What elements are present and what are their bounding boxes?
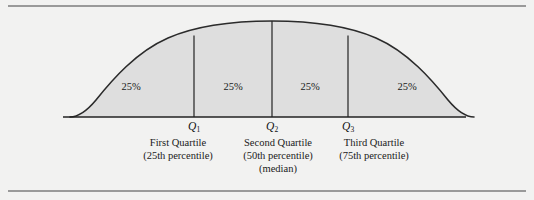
quartile-symbol-q2: Q2 xyxy=(266,120,278,132)
quartile-symbol-q2-letter: Q xyxy=(266,120,274,132)
bottom-divider-rule xyxy=(8,190,526,192)
quartile-caption-q1-name: First Quartile xyxy=(143,136,213,149)
quartile-caption-q1-percentile: (25th percentile) xyxy=(143,149,213,162)
area-percent-label-4: 25% xyxy=(397,81,416,92)
quartile-caption-q3-percentile: (75th percentile) xyxy=(339,149,409,162)
quartile-caption-q2-name: Second Quartile xyxy=(243,136,313,149)
area-percent-label-1: 25% xyxy=(121,81,140,92)
quartile-symbol-q3-letter: Q xyxy=(342,120,350,132)
distribution-curve-graphic xyxy=(0,8,534,138)
area-percent-label-3: 25% xyxy=(300,81,319,92)
area-percent-label-2: 25% xyxy=(223,81,242,92)
quartile-caption-q3: Third Quartile (75th percentile) xyxy=(339,136,409,162)
quartile-symbol-q1-sub: 1 xyxy=(197,125,201,134)
quartile-caption-q1: First Quartile (25th percentile) xyxy=(143,136,213,162)
quartile-symbol-q3: Q3 xyxy=(342,120,354,132)
quartile-diagram: 25% 25% 25% 25% Q1 Q2 Q3 First Quartile … xyxy=(0,8,534,188)
quartile-caption-q2-median: (median) xyxy=(243,162,313,175)
quartile-symbol-q3-sub: 3 xyxy=(351,125,355,134)
quartile-caption-q3-name: Third Quartile xyxy=(339,136,409,149)
figure-page: 25% 25% 25% 25% Q1 Q2 Q3 First Quartile … xyxy=(0,0,534,200)
quartile-caption-q2-percentile: (50th percentile) xyxy=(243,149,313,162)
quartile-symbol-q1-letter: Q xyxy=(188,120,196,132)
quartile-caption-q2: Second Quartile (50th percentile) (media… xyxy=(243,136,313,175)
quartile-symbol-q1: Q1 xyxy=(188,120,200,132)
quartile-symbol-q2-sub: 2 xyxy=(275,125,279,134)
top-divider-rule xyxy=(8,5,526,7)
